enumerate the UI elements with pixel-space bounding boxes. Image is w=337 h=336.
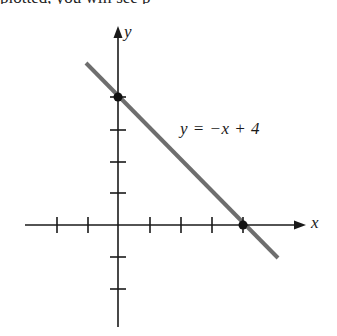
- x-axis-arrow-icon: [294, 221, 306, 230]
- y-axis-arrow-icon: [114, 26, 123, 38]
- graph-line: [86, 63, 278, 258]
- equation-label: y = −x + 4: [180, 119, 260, 139]
- y-axis-label: y: [124, 22, 132, 42]
- y-intercept-point: [114, 93, 123, 102]
- coordinate-plane: [0, 0, 337, 336]
- x-axis-label: x: [311, 213, 319, 233]
- x-intercept-point: [239, 221, 248, 230]
